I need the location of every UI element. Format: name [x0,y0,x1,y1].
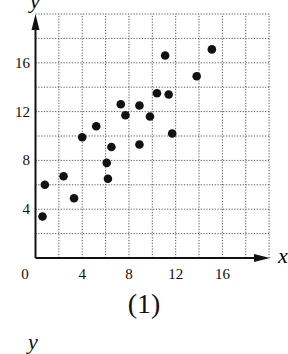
x-tick-label: 12 [168,266,183,282]
data-point [92,122,101,131]
x-axis-label: x [277,243,288,268]
y-tick-label: 12 [15,104,30,120]
axes [32,14,271,262]
x-tick-label: 8 [125,266,133,282]
data-point [135,101,144,110]
data-point [192,72,201,81]
data-point [116,100,125,109]
data-point [121,111,130,120]
data-point [208,45,217,54]
data-point [153,89,162,98]
x-tick-label: 0 [21,266,29,282]
data-points [38,45,216,221]
data-point [102,159,111,168]
data-point [59,172,68,181]
x-axis-arrow-icon [254,254,270,262]
data-point [135,140,144,149]
x-tick-label: 4 [78,266,86,282]
y-axis-label: y [28,0,40,13]
next-figure-y-label: y [28,331,38,353]
y-tick-label: 8 [23,152,31,168]
data-point [38,212,47,221]
x-tick-label: 16 [215,266,231,282]
grid-lines [36,14,270,258]
y-axis-arrow-icon [32,14,40,30]
data-point [161,51,170,60]
data-point [41,181,50,190]
data-point [104,174,113,183]
data-point [146,112,155,121]
data-point [78,133,87,142]
data-point [70,194,79,203]
data-point [164,90,173,99]
y-tick-label: 16 [15,55,31,71]
scatter-plot: 0481216481216 x y [0,0,288,290]
tick-labels: 0481216481216 [15,55,230,282]
y-tick-label: 4 [23,201,31,217]
data-point [168,129,177,138]
data-point [107,143,116,152]
figure-caption: (1) [0,288,288,320]
